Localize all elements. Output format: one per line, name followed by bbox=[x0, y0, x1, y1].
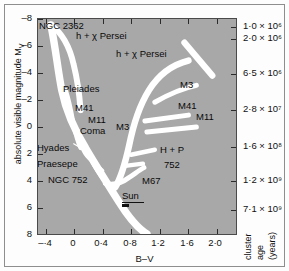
curve-hp-clump bbox=[131, 150, 155, 155]
label-m11-left: M11 bbox=[88, 115, 106, 125]
x-tick-2: 0·4 bbox=[86, 238, 116, 248]
y-left-tick-8: 8 bbox=[12, 229, 32, 239]
curve-m11-giants bbox=[147, 127, 197, 132]
sun-marker bbox=[122, 204, 129, 207]
sun-underline bbox=[122, 202, 144, 203]
y-right-tick-4: 1·6 × 10⁸ bbox=[243, 141, 282, 151]
x-tick-1: 0 bbox=[58, 238, 88, 248]
x-tick-6: 2·0 bbox=[200, 238, 230, 248]
curve-752-clump bbox=[127, 164, 143, 166]
x-tick-5: 1·6 bbox=[172, 238, 202, 248]
y-left-tick-7: 6 bbox=[12, 202, 32, 212]
y-axis-left-title-text: absolute visible magnitude M bbox=[13, 48, 23, 164]
label-m3-middle: M3 bbox=[116, 122, 129, 132]
y-axis-right-title: cluster age (years) bbox=[243, 190, 287, 260]
label-m67: M67 bbox=[142, 176, 160, 186]
hr-diagram-figure: –8 –6 –4 –2 0 2 4 6 8 absolute visible m… bbox=[0, 0, 289, 271]
label-ngc-752: NGC 752 bbox=[48, 175, 88, 185]
plot-area: NGC 2362 h + χ Persei h + χ Persei Pleia… bbox=[37, 18, 237, 235]
y-right-tick-3: 2·8 × 10⁷ bbox=[243, 104, 282, 114]
x-tick-0: –·4 bbox=[30, 238, 60, 248]
y-left-tick-0: –8 bbox=[12, 13, 32, 23]
label-praesepe: Praesepe bbox=[37, 159, 78, 169]
x-tick-4: 1·2 bbox=[143, 238, 173, 248]
label-hyades: Hyades bbox=[37, 143, 69, 153]
x-axis-title: B–V bbox=[0, 253, 289, 264]
label-m41-left: M41 bbox=[75, 103, 93, 113]
label-sun: Sun bbox=[122, 191, 139, 201]
label-m41-right: M41 bbox=[178, 101, 196, 111]
label-m11-right: M11 bbox=[196, 112, 214, 122]
label-752: 752 bbox=[164, 160, 180, 170]
y-axis-left-title-subscript: V bbox=[18, 44, 25, 49]
y-right-tick-2: 6·5 × 10⁶ bbox=[243, 68, 282, 78]
label-h-plus-p: H + P bbox=[160, 145, 184, 155]
y-axis-left-title: absolute visible magnitude MV bbox=[13, 24, 25, 184]
y-right-tick-5: 1·2 × 10⁹ bbox=[243, 175, 282, 185]
y-right-tick-1: 2·0 × 10⁶ bbox=[243, 33, 282, 43]
label-coma: Coma bbox=[80, 126, 105, 136]
label-h-chi-persei-2: h + χ Persei bbox=[116, 49, 167, 59]
label-h-chi-persei-1: h + χ Persei bbox=[76, 31, 127, 41]
x-tick-3: 0·8 bbox=[115, 238, 145, 248]
curve-m41-giants bbox=[145, 115, 189, 121]
label-m3-right: M3 bbox=[180, 80, 193, 90]
y-right-tick-0: 1·0 × 10⁶ bbox=[243, 21, 282, 31]
label-pleiades: Pleiades bbox=[63, 84, 99, 94]
